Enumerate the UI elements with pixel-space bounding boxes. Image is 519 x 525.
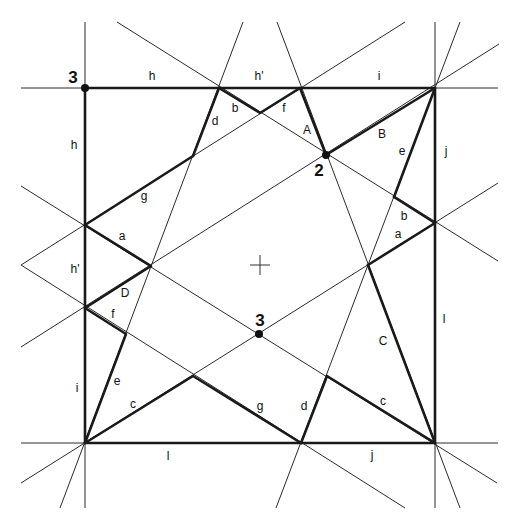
edge-label: l <box>443 312 446 326</box>
edge-label: i <box>378 69 381 83</box>
diagonal-up-1 <box>21 22 405 265</box>
edge-label: h <box>149 69 156 83</box>
edge-label: g <box>257 399 264 413</box>
edge-label: h <box>71 138 78 152</box>
point-3-corner <box>81 84 89 92</box>
edge-label: D <box>121 286 130 300</box>
point-label: 3 <box>255 311 264 330</box>
edge-label: C <box>379 334 388 348</box>
edge-label: d <box>301 399 308 413</box>
edge-label: h' <box>71 262 80 276</box>
edge-label: a <box>395 227 402 241</box>
right-notch-ba <box>368 197 435 265</box>
diagonal-down-1 <box>117 22 498 261</box>
edge-label: h' <box>255 69 264 83</box>
edge-label: l <box>167 449 170 463</box>
geometric-construction-diagram: 3 2 3 hh'ihjbdfABegabah'DfieclCgdclj <box>0 0 519 525</box>
edge-label: b <box>401 209 408 223</box>
diagonal-down-3 <box>21 265 405 508</box>
edge-B <box>326 88 435 155</box>
edge-label: e <box>114 374 121 388</box>
edge-label: i <box>76 381 79 395</box>
point-label: 2 <box>314 161 323 180</box>
edge-label: f <box>282 101 286 115</box>
edge-label: f <box>111 307 115 321</box>
edge-label: c <box>130 397 136 411</box>
diagonal-up-2 <box>21 44 499 347</box>
edge-label: b <box>232 101 239 115</box>
edge-label: c <box>380 394 386 408</box>
edge-label: A <box>303 123 311 137</box>
edge-label: j <box>444 144 448 158</box>
point-3-center <box>255 330 263 338</box>
edge-g-top <box>85 156 193 225</box>
edge-label: e <box>399 144 406 158</box>
edge-e-right <box>394 88 435 197</box>
edge-C <box>368 265 435 443</box>
edge-labels: hh'ihjbdfABegabah'DfieclCgdclj <box>71 69 448 463</box>
point-2 <box>322 151 330 159</box>
point-label: 3 <box>68 68 77 87</box>
edge-label: d <box>212 114 219 128</box>
edge-label: j <box>370 448 374 462</box>
edge-label: g <box>141 189 148 203</box>
center-cross-icon <box>250 255 270 275</box>
edge-label: B <box>378 127 386 141</box>
edge-label: a <box>119 229 126 243</box>
